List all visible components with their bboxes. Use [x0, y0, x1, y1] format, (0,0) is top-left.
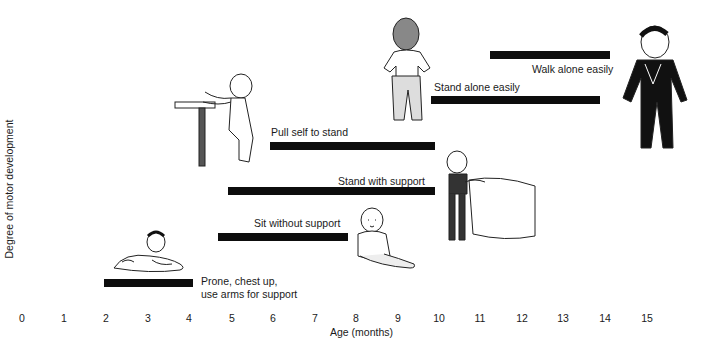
child-pulling-to-stand-illustration — [173, 72, 273, 168]
label-pull-self: Pull self to stand — [271, 126, 348, 139]
x-tick-6: 6 — [270, 312, 276, 324]
bar-walk-alone — [490, 51, 610, 59]
x-tick-12: 12 — [516, 312, 528, 324]
label-sit: Sit without support — [254, 217, 340, 230]
child-standing-with-support-illustration — [437, 148, 537, 248]
bar-sit-without-support — [218, 233, 348, 241]
label-stand-with-support: Stand with support — [338, 175, 425, 188]
infant-prone-illustration — [112, 228, 192, 274]
x-tick-10: 10 — [433, 312, 445, 324]
x-tick-9: 9 — [395, 312, 401, 324]
x-tick-15: 15 — [641, 312, 653, 324]
label-stand-alone: Stand alone easily — [434, 81, 520, 94]
y-axis-label-text: Degree of motor development — [3, 120, 15, 259]
bar-pull-self-to-stand — [270, 142, 435, 150]
bar-prone — [104, 279, 193, 287]
label-walk-alone: Walk alone easily — [532, 63, 613, 76]
x-tick-8: 8 — [353, 312, 359, 324]
infant-sitting-illustration — [350, 206, 420, 276]
child-standing-alone-illustration — [374, 14, 440, 134]
label-prone: Prone, chest up, use arms for support — [201, 275, 297, 301]
label-prone-line1: Prone, chest up, — [201, 275, 297, 288]
bar-stand-with-support — [228, 187, 435, 195]
x-axis-label: Age (months) — [330, 326, 393, 338]
x-tick-4: 4 — [186, 312, 192, 324]
x-tick-0: 0 — [19, 312, 25, 324]
x-tick-13: 13 — [557, 312, 569, 324]
y-axis-label: Degree of motor development — [2, 96, 16, 282]
x-tick-11: 11 — [475, 312, 486, 324]
x-tick-5: 5 — [229, 312, 235, 324]
child-walking-illustration — [617, 24, 691, 156]
x-tick-3: 3 — [145, 312, 151, 324]
bar-stand-alone — [431, 96, 600, 104]
x-tick-2: 2 — [103, 312, 109, 324]
x-tick-14: 14 — [599, 312, 611, 324]
x-tick-7: 7 — [312, 312, 318, 324]
label-prone-line2: use arms for support — [201, 288, 297, 301]
x-tick-1: 1 — [61, 312, 67, 324]
